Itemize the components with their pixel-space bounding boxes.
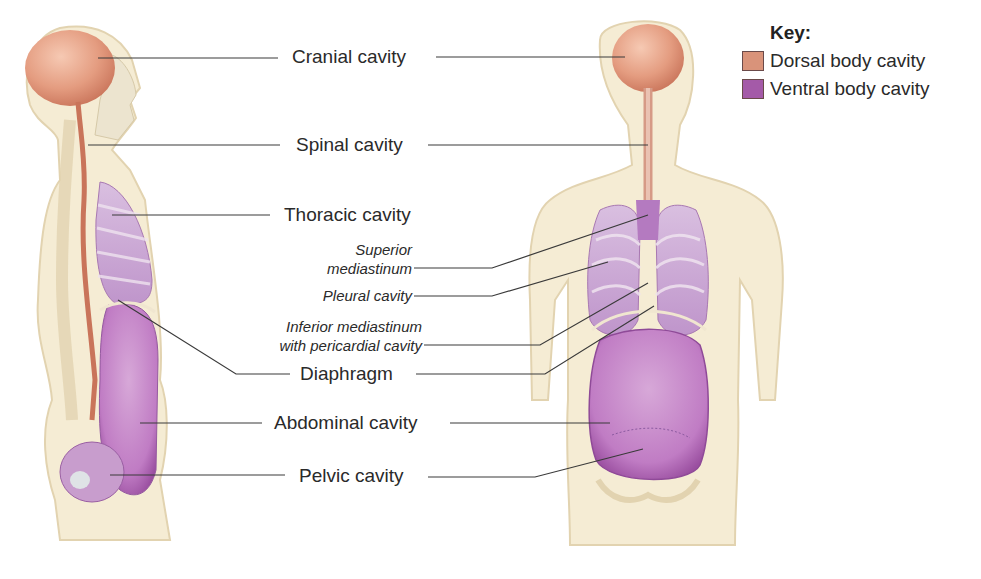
dorsal-swatch-icon (742, 51, 764, 71)
legend-title: Key: (770, 22, 929, 44)
legend-label: Dorsal body cavity (770, 50, 925, 72)
label-spinal-cavity: Spinal cavity (296, 134, 403, 156)
legend-item-ventral: Ventral body cavity (742, 78, 929, 100)
label-pleural-cavity: Pleural cavity (290, 286, 412, 305)
label-abdominal-cavity: Abdominal cavity (274, 412, 418, 434)
label-line: Inferior mediastinum (240, 317, 422, 336)
legend: Key: Dorsal body cavity Ventral body cav… (742, 22, 929, 100)
legend-item-dorsal: Dorsal body cavity (742, 50, 929, 72)
label-thoracic-cavity: Thoracic cavity (284, 204, 411, 226)
label-line: with pericardial cavity (240, 336, 422, 355)
body-cavities-diagram: Cranial cavity Spinal cavity Thoracic ca… (0, 0, 981, 579)
label-line: mediastinum (290, 259, 412, 278)
label-superior-mediastinum: Superior mediastinum (290, 240, 412, 278)
lateral-figure (25, 27, 170, 540)
label-line: Superior (290, 240, 412, 259)
label-cranial-cavity: Cranial cavity (292, 46, 406, 68)
label-diaphragm: Diaphragm (300, 363, 393, 385)
label-inferior-mediastinum: Inferior mediastinum with pericardial ca… (240, 317, 422, 355)
label-pelvic-cavity: Pelvic cavity (299, 465, 404, 487)
ventral-swatch-icon (742, 79, 764, 99)
legend-label: Ventral body cavity (770, 78, 929, 100)
